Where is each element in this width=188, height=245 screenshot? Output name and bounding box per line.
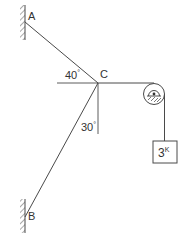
angle-40-label: 40° bbox=[65, 70, 80, 81]
angle-40-value: 40 bbox=[65, 69, 77, 81]
cable-bc bbox=[25, 83, 98, 217]
load-value: 3 bbox=[158, 146, 165, 160]
cable-ac bbox=[25, 22, 98, 83]
point-a-label: A bbox=[28, 11, 35, 22]
load-weight-label: 3K bbox=[158, 147, 169, 159]
angle-30-value: 30 bbox=[81, 121, 93, 133]
degree-symbol: ° bbox=[93, 121, 96, 128]
wall-a-support bbox=[20, 5, 25, 40]
angle-30-label: 30° bbox=[81, 122, 96, 133]
point-b-label: B bbox=[28, 211, 35, 222]
wall-b-support bbox=[20, 199, 25, 233]
point-c-label: C bbox=[100, 69, 108, 80]
pulley bbox=[144, 84, 165, 105]
degree-symbol: ° bbox=[77, 69, 80, 76]
pulley-axle-icon bbox=[153, 93, 156, 96]
load-unit: K bbox=[165, 146, 170, 153]
